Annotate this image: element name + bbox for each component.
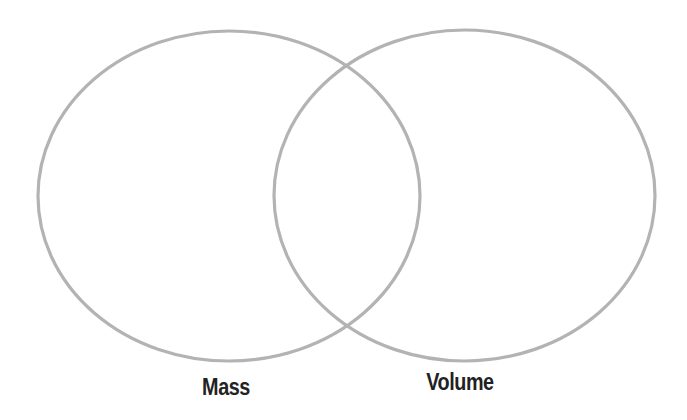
venn-set-volume [274,30,655,361]
venn-label-volume: Volume [426,371,493,394]
venn-diagram [0,0,687,420]
venn-label-mass: Mass [202,376,250,399]
venn-set-mass [38,31,420,361]
